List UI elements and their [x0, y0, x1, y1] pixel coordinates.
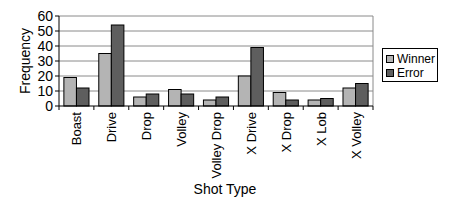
x-tick-label: Drop [139, 112, 154, 140]
legend-item-winner: Winner [386, 52, 437, 66]
y-tick-label: 40 [37, 38, 53, 54]
bar-error [76, 88, 89, 106]
bar-error [356, 84, 369, 107]
y-tick-label: 50 [37, 23, 53, 39]
legend-item-error: Error [386, 66, 437, 80]
y-tick-label: 60 [37, 8, 53, 24]
x-tick-label: Boast [69, 112, 84, 146]
legend-label-error: Error [397, 66, 424, 80]
bar-winner [203, 100, 216, 106]
bar-winner [308, 100, 321, 106]
x-tick-label: Volley [174, 112, 189, 147]
bar-winner [343, 88, 356, 106]
bar-winner [238, 76, 251, 106]
y-tick-label: 0 [45, 98, 53, 114]
x-tick-label: X Drop [279, 112, 294, 152]
error-swatch-icon [386, 69, 394, 77]
x-tick-label: X Volley [349, 112, 364, 159]
bar-chart: 0102030405060BoastDriveDropVolleyVolley … [0, 0, 452, 206]
bar-winner [99, 54, 112, 107]
bar-error [321, 99, 334, 107]
x-tick-label: X Lob [314, 112, 329, 146]
x-tick-label: Volley Drop [209, 112, 224, 178]
bar-error [181, 94, 194, 106]
y-axis-title: Frequency [17, 28, 33, 94]
bar-error [111, 25, 124, 106]
bar-error [146, 94, 159, 106]
y-tick-label: 10 [37, 83, 53, 99]
legend-label-winner: Winner [397, 52, 435, 66]
bar-error [251, 48, 264, 107]
y-tick-label: 30 [37, 53, 53, 69]
bar-winner [134, 97, 147, 106]
x-tick-label: X Drive [244, 112, 259, 155]
bar-winner [273, 93, 286, 107]
bar-error [216, 97, 229, 106]
chart-legend: Winner Error [382, 48, 438, 82]
x-axis-title: Shot Type [194, 181, 257, 197]
bar-error [286, 100, 299, 106]
y-tick-label: 20 [37, 68, 53, 84]
bar-winner [64, 78, 77, 107]
x-tick-label: Drive [104, 112, 119, 142]
winner-swatch-icon [386, 55, 394, 63]
bar-winner [169, 90, 182, 107]
